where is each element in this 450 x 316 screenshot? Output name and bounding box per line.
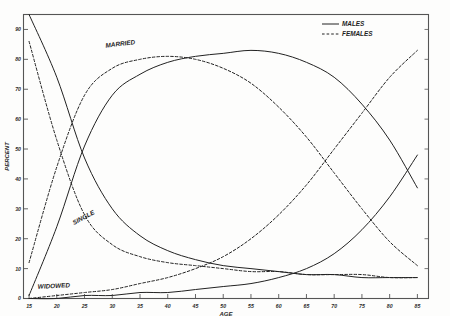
curve-label-single: SINGLE	[71, 208, 96, 226]
y-tick-label: 0	[18, 295, 21, 301]
legend-label-males: MALES	[342, 20, 365, 27]
curve-label-married: MARRIED	[105, 38, 136, 49]
y-tick-label: 50	[15, 146, 21, 152]
x-tick-label: 65	[304, 303, 310, 309]
y-tick-label: 40	[14, 176, 21, 182]
y-tick-label: 60	[15, 116, 21, 122]
x-tick-label: 85	[415, 303, 421, 309]
x-tick-label: 15	[26, 303, 32, 309]
y-tick-label: 80	[15, 56, 21, 62]
curve-label-widowed: WIDOWED	[38, 281, 71, 290]
x-tick-label: 50	[220, 303, 226, 309]
x-tick-label: 45	[192, 303, 199, 309]
y-tick-label: 20	[14, 236, 21, 242]
series-line-married-females	[29, 56, 417, 265]
series-line-single-females	[29, 41, 417, 277]
y-tick-label: 30	[15, 206, 21, 212]
x-tick-label: 70	[331, 303, 337, 309]
x-tick-label: 75	[359, 303, 365, 309]
x-tick-label: 40	[164, 303, 171, 309]
x-tick-label: 35	[137, 303, 143, 309]
x-tick-label: 20	[53, 303, 60, 309]
y-axis-label: PERCENT	[4, 141, 10, 171]
x-tick-label: 25	[81, 303, 88, 309]
series-line-married-males	[29, 50, 417, 295]
chart-canvas: 1520253035404550556065707580850102030405…	[0, 0, 450, 316]
x-axis-label: AGE	[218, 311, 233, 316]
y-tick-label: 10	[15, 266, 21, 272]
y-tick-label: 70	[15, 86, 21, 92]
x-tick-label: 55	[248, 303, 254, 309]
x-tick-label: 30	[109, 303, 115, 309]
series-line-widowed-females	[29, 50, 417, 298]
x-tick-label: 80	[387, 303, 393, 309]
legend-label-females: FEMALES	[342, 30, 373, 37]
series-line-single-males	[29, 15, 417, 278]
percent-by-age-chart: 1520253035404550556065707580850102030405…	[0, 0, 450, 316]
x-tick-label: 60	[276, 303, 282, 309]
y-tick-label: 90	[15, 26, 21, 32]
